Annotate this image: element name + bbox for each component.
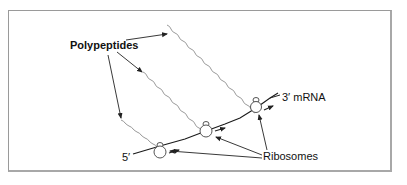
ribosomes-label: Ribosomes <box>263 151 318 162</box>
polypeptide-2 <box>143 72 203 132</box>
movement-arrow-2 <box>215 128 225 131</box>
polyribosome-diagram <box>0 0 407 185</box>
polypeptide-chains <box>121 25 255 150</box>
pointer-arrow-poly-2 <box>117 52 142 72</box>
pointer-arrow-ribo-3 <box>259 115 267 150</box>
pointer-arrow-ribo-2 <box>216 137 262 155</box>
polypeptide-1 <box>121 120 161 150</box>
mrna-3prime-label: 3′ mRNA <box>282 92 326 103</box>
five-prime-label: 5′ <box>122 152 130 163</box>
polypeptide-3 <box>167 25 255 113</box>
polypeptides-label: Polypeptides <box>70 40 138 51</box>
pointer-arrow-poly-1 <box>108 55 121 118</box>
pointer-arrow-ribo-1 <box>170 151 262 158</box>
ribosome-2 <box>200 122 212 138</box>
ribosomes-pointer-arrows <box>170 115 267 158</box>
movement-arrow-3 <box>264 106 273 110</box>
ribosome-3 <box>251 98 262 113</box>
